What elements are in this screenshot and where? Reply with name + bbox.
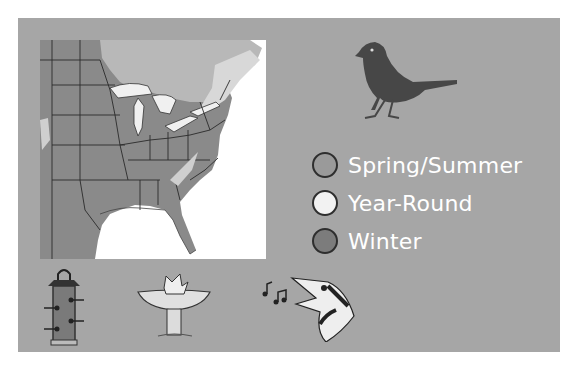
legend-label: Winter	[348, 229, 422, 254]
year-round-swatch-icon	[312, 190, 338, 216]
us-east-map-icon	[40, 40, 266, 259]
winter-swatch-icon	[312, 228, 338, 254]
legend: Spring/Summer Year-Round Winter	[312, 146, 522, 260]
birdbath-icon	[136, 274, 212, 340]
legend-item-spring-summer: Spring/Summer	[312, 146, 522, 184]
tube-feeder-icon	[40, 266, 88, 348]
spring-summer-swatch-icon	[312, 152, 338, 178]
legend-item-year-round: Year-Round	[312, 184, 522, 222]
bird-silhouette-icon	[345, 38, 475, 128]
legend-label: Year-Round	[348, 191, 473, 216]
legend-label: Spring/Summer	[348, 153, 522, 178]
range-map	[40, 40, 266, 259]
singing-bird-icon	[262, 276, 366, 342]
legend-item-winter: Winter	[312, 222, 522, 260]
